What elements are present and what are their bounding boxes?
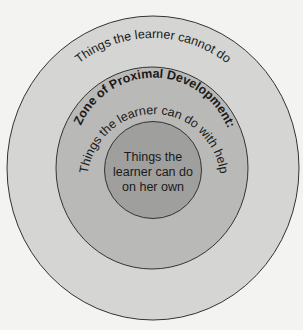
inner-circle-line-3: on her own [122,180,184,194]
inner-circle-line-1: Things the [124,150,182,164]
zpd-concentric-diagram: Things the learner cannot do Zone of Pro… [0,0,303,330]
inner-circle-line-2: learner can do [113,165,193,179]
